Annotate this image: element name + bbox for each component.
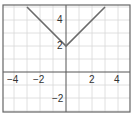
x-tick-label: 4 (114, 74, 120, 85)
y-tick-label: 4 (57, 14, 63, 25)
x-tick-label: −4 (7, 74, 19, 85)
x-tick-label: 2 (89, 74, 95, 85)
x-tick-label: −2 (33, 74, 45, 85)
graph-plot: −4 −2 2 4 4 2 −2 (0, 0, 132, 116)
y-tick-label: −2 (52, 93, 64, 104)
y-tick-label: 2 (57, 40, 63, 51)
